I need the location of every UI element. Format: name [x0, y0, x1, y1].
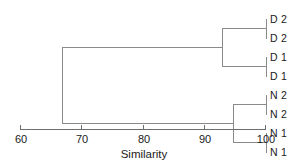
leaf-label-2: D 1 — [270, 52, 287, 63]
x-tick-label-80: 80 — [138, 134, 150, 145]
x-tick-label-90: 90 — [199, 134, 211, 145]
leaf-label-7: N 1 — [270, 147, 287, 158]
dendrogram-figure: D 2 D 2 D 1 D 1 N 2 N 2 N 1 N 1 60 70 80… — [0, 0, 303, 163]
x-axis-group — [20, 125, 266, 130]
tree-group — [62, 19, 267, 152]
x-tick-label-70: 70 — [76, 134, 88, 145]
merge-link-m5 — [222, 29, 266, 67]
leaf-label-0: D 2 — [270, 14, 287, 25]
leaf-label-3: D 1 — [270, 71, 287, 82]
x-tick-label-60: 60 — [15, 134, 27, 145]
merge-link-m7-root — [62, 48, 233, 124]
leaf-label-5: N 2 — [270, 109, 287, 120]
leaf-label-4: N 2 — [270, 90, 287, 101]
x-axis-title: Similarity — [121, 149, 168, 161]
leaf-label-1: D 2 — [270, 33, 287, 44]
x-tick-label-100: 100 — [257, 134, 275, 145]
